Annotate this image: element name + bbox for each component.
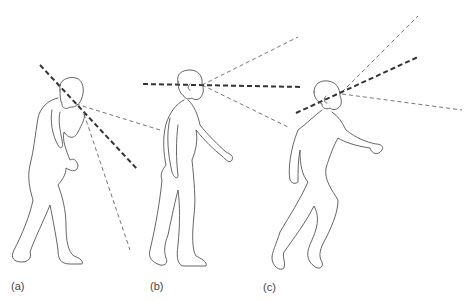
figure-c-body — [272, 110, 383, 269]
panel-label-c: (c) — [263, 281, 276, 293]
figure-c-view-lower — [342, 94, 462, 110]
figure-b-gaze-axis — [143, 84, 302, 87]
figure-b — [143, 37, 302, 266]
panel-label-b: (b) — [150, 280, 163, 292]
panel-label-a: (a) — [11, 280, 24, 292]
figure-a-view-lower — [84, 114, 130, 250]
figure-c — [272, 16, 462, 269]
figure-b-ear — [188, 84, 190, 90]
figure-b-rear-arm — [168, 118, 178, 178]
figure-a-head — [60, 78, 84, 109]
figure-b-view-upper — [202, 37, 298, 85]
figure-b-body — [149, 100, 232, 266]
figure-a-view-upper — [76, 104, 160, 130]
figure-a-arm — [51, 110, 62, 148]
figure-a-gaze-axis — [40, 65, 138, 170]
figure-c-gaze-axis — [296, 57, 418, 113]
figure-a-body — [12, 98, 84, 264]
figure-b-view-lower — [202, 85, 290, 128]
figure-c-view-upper — [342, 16, 418, 92]
figure-a — [12, 65, 160, 264]
figure-canvas: (a) (b) (c) — [0, 0, 468, 302]
diagram-svg — [0, 0, 468, 302]
